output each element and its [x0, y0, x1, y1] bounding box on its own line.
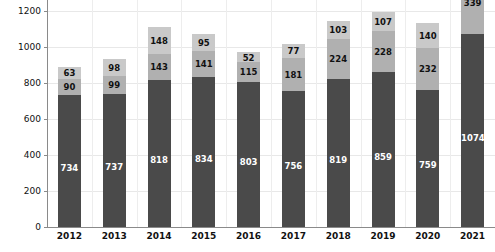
x-tick-label-2015: 2015 — [191, 231, 216, 241]
bar-value-label-bottom-2014: 818 — [148, 156, 171, 165]
x-tick-label-2019: 2019 — [370, 231, 395, 241]
y-tick-mark-400 — [44, 155, 48, 156]
x-tick-label-2018: 2018 — [326, 231, 351, 241]
y-tick-mark-600 — [44, 119, 48, 120]
bar-value-label-top-2014: 148 — [148, 37, 171, 46]
bar-value-label-middle-2020: 232 — [416, 65, 439, 74]
bar-value-label-top-2019: 107 — [372, 18, 395, 27]
y-tick-mark-200 — [44, 191, 48, 192]
bar-segment-middle-2016[interactable]: 115 — [237, 62, 260, 83]
bar-value-label-top-2016: 52 — [237, 54, 260, 63]
bar-value-label-middle-2016: 115 — [237, 68, 260, 77]
vertical-gridline — [316, 0, 317, 227]
bar-segment-top-2014[interactable]: 148 — [148, 27, 171, 54]
bar-segment-bottom-2020[interactable]: 759 — [416, 90, 439, 227]
bar-value-label-top-2017: 77 — [282, 47, 305, 56]
bar-value-label-middle-2015: 141 — [192, 60, 215, 69]
bar-segment-top-2019[interactable]: 107 — [372, 12, 395, 31]
bar-value-label-bottom-2019: 859 — [372, 153, 395, 162]
bar-segment-bottom-2018[interactable]: 819 — [327, 79, 350, 227]
bar-segment-top-2013[interactable]: 98 — [103, 59, 126, 77]
y-tick-label-600: 600 — [11, 114, 41, 124]
bar-segment-bottom-2019[interactable]: 859 — [372, 72, 395, 227]
bar-value-label-bottom-2012: 734 — [58, 164, 81, 173]
bar-value-label-middle-2019: 228 — [372, 48, 395, 57]
bar-segment-bottom-2015[interactable]: 834 — [192, 77, 215, 227]
bar-segment-bottom-2012[interactable]: 734 — [58, 95, 81, 227]
bar-segment-top-2018[interactable]: 103 — [327, 21, 350, 40]
y-tick-label-800: 800 — [11, 78, 41, 88]
bar-value-label-middle-2017: 181 — [282, 71, 305, 80]
x-tick-label-2016: 2016 — [236, 231, 261, 241]
vertical-gridline — [92, 0, 93, 227]
x-tick-label-2014: 2014 — [146, 231, 171, 241]
stacked-bar-chart: 020040060080010001200 201220132014201520… — [0, 0, 495, 252]
bar-value-label-top-2015: 95 — [192, 39, 215, 48]
y-tick-label-200: 200 — [11, 186, 41, 196]
bar-segment-bottom-2021[interactable]: 1074 — [461, 34, 484, 227]
bar-value-label-middle-2012: 90 — [58, 83, 81, 92]
vertical-gridline — [405, 0, 406, 227]
bar-segment-middle-2017[interactable]: 181 — [282, 58, 305, 91]
bar-value-label-middle-2014: 143 — [148, 63, 171, 72]
bar-value-label-middle-2021: 339 — [461, 0, 484, 7]
vertical-gridline — [271, 0, 272, 227]
bar-segment-middle-2012[interactable]: 90 — [58, 79, 81, 95]
bar-value-label-top-2020: 140 — [416, 32, 439, 41]
vertical-gridline — [361, 0, 362, 227]
bar-segment-middle-2013[interactable]: 99 — [103, 76, 126, 94]
y-tick-label-400: 400 — [11, 150, 41, 160]
bar-segment-bottom-2017[interactable]: 756 — [282, 91, 305, 227]
y-tick-mark-1000 — [44, 47, 48, 48]
y-tick-label-0: 0 — [11, 222, 41, 232]
bar-segment-top-2012[interactable]: 63 — [58, 67, 81, 78]
bar-segment-bottom-2013[interactable]: 737 — [103, 94, 126, 227]
bar-segment-middle-2021[interactable]: 339 — [461, 0, 484, 34]
bar-segment-middle-2019[interactable]: 228 — [372, 31, 395, 72]
y-tick-mark-0 — [44, 227, 48, 228]
bar-value-label-top-2012: 63 — [58, 69, 81, 78]
bar-value-label-bottom-2017: 756 — [282, 162, 305, 171]
bar-value-label-top-2018: 103 — [327, 26, 350, 35]
vertical-gridline — [226, 0, 227, 227]
bar-segment-middle-2014[interactable]: 143 — [148, 54, 171, 80]
y-tick-mark-1200 — [44, 11, 48, 12]
bar-value-label-bottom-2015: 834 — [192, 155, 215, 164]
bar-value-label-bottom-2018: 819 — [327, 156, 350, 165]
bar-segment-middle-2015[interactable]: 141 — [192, 51, 215, 76]
x-axis-line — [47, 227, 495, 228]
y-tick-mark-800 — [44, 83, 48, 84]
vertical-gridline — [137, 0, 138, 227]
x-tick-label-2021: 2021 — [460, 231, 485, 241]
y-tick-label-1000: 1000 — [11, 42, 41, 52]
bar-segment-bottom-2016[interactable]: 803 — [237, 82, 260, 227]
bar-segment-middle-2020[interactable]: 232 — [416, 48, 439, 90]
y-tick-label-1200: 1200 — [11, 6, 41, 16]
bar-segment-top-2015[interactable]: 95 — [192, 34, 215, 51]
bar-value-label-top-2013: 98 — [103, 64, 126, 73]
bar-segment-top-2017[interactable]: 77 — [282, 44, 305, 58]
vertical-gridline — [450, 0, 451, 227]
bar-segment-top-2020[interactable]: 140 — [416, 23, 439, 48]
bar-segment-middle-2018[interactable]: 224 — [327, 39, 350, 79]
bar-segment-bottom-2014[interactable]: 818 — [148, 80, 171, 227]
bar-segment-top-2016[interactable]: 52 — [237, 52, 260, 61]
bar-value-label-middle-2013: 99 — [103, 81, 126, 90]
x-tick-label-2017: 2017 — [281, 231, 306, 241]
x-tick-label-2020: 2020 — [415, 231, 440, 241]
y-axis-line — [47, 0, 48, 227]
bar-value-label-middle-2018: 224 — [327, 55, 350, 64]
x-tick-label-2012: 2012 — [57, 231, 82, 241]
bar-value-label-bottom-2016: 803 — [237, 158, 260, 167]
x-tick-label-2013: 2013 — [102, 231, 127, 241]
vertical-gridline — [181, 0, 182, 227]
bar-value-label-bottom-2021: 1074 — [461, 134, 484, 143]
bar-value-label-bottom-2013: 737 — [103, 163, 126, 172]
bar-value-label-bottom-2020: 759 — [416, 161, 439, 170]
